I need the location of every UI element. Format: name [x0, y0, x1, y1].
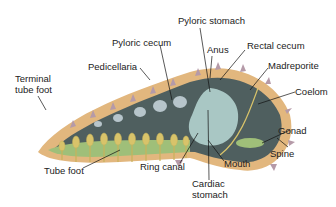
label-cardiac-stomach: Cardiac stomach	[192, 178, 228, 200]
label-ring-canal: Ring canal	[140, 161, 185, 172]
label-terminal-tube-foot: Terminal tube foot	[15, 73, 52, 95]
label-gonad: Gonad	[278, 125, 307, 136]
sea-star-diagram: Pyloric stomach Pyloric cecum Anus Recta…	[0, 0, 336, 207]
label-pyloric-cecum: Pyloric cecum	[112, 37, 171, 48]
label-spine: Spine	[270, 148, 294, 159]
label-anus: Anus	[207, 44, 229, 55]
label-mouth: Mouth	[224, 158, 250, 169]
label-tube-foot: Tube foot	[44, 165, 84, 176]
label-madreporite: Madreporite	[268, 60, 319, 71]
label-pedicellaria: Pedicellaria	[88, 61, 137, 72]
label-coelom: Coelom	[295, 86, 328, 97]
label-pyloric-stomach: Pyloric stomach	[178, 15, 245, 26]
gonad	[236, 138, 264, 148]
label-rectal-cecum: Rectal cecum	[247, 40, 305, 51]
